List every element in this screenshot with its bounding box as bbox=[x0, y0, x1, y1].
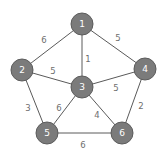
node-4-label: 4 bbox=[142, 64, 148, 74]
edge-weight-1-3: 1 bbox=[85, 54, 90, 64]
node-5-label: 5 bbox=[44, 128, 50, 138]
edge-weight-2-5: 3 bbox=[25, 103, 30, 113]
nodes: 1 2 3 4 5 6 bbox=[11, 13, 156, 144]
edge-weight-1-4: 5 bbox=[115, 33, 120, 43]
edge-weight-2-3: 5 bbox=[50, 66, 55, 76]
node-6: 6 bbox=[111, 122, 133, 144]
edge-weight-5-6: 6 bbox=[80, 140, 85, 150]
node-1: 1 bbox=[71, 13, 93, 35]
node-4: 4 bbox=[134, 58, 156, 80]
edge-weight-1-2: 6 bbox=[41, 35, 46, 45]
edge-weight-3-5: 6 bbox=[56, 103, 61, 113]
weighted-graph-diagram: 6 5 1 5 5 3 6 4 2 6 1 2 3 4 5 bbox=[0, 0, 167, 155]
node-1-label: 1 bbox=[79, 19, 85, 29]
node-2-label: 2 bbox=[19, 65, 25, 75]
node-6-label: 6 bbox=[119, 128, 125, 138]
edge-weight-3-4: 5 bbox=[113, 83, 118, 93]
node-3-label: 3 bbox=[79, 82, 85, 92]
node-5: 5 bbox=[36, 122, 58, 144]
edge-1-4 bbox=[82, 24, 145, 69]
node-2: 2 bbox=[11, 59, 33, 81]
node-3: 3 bbox=[71, 76, 93, 98]
edge-weight-3-6: 4 bbox=[94, 110, 99, 120]
edge-weight-4-6: 2 bbox=[138, 101, 143, 111]
